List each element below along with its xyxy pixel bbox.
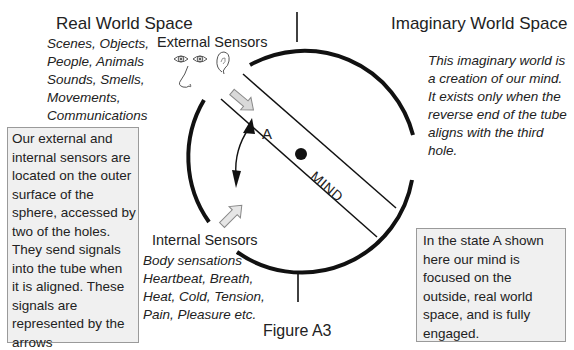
note-line: arrows	[12, 334, 134, 350]
note-line: focused on the	[423, 269, 559, 288]
state-note-box: In the state A shown here our mind is fo…	[416, 228, 566, 342]
external-sensors-label: External Sensors	[157, 34, 267, 50]
note-line: it is aligned. These	[12, 278, 134, 297]
internal-sensor-item: Body sensations	[143, 252, 265, 270]
real-world-title: Real World Space	[56, 14, 193, 34]
center-dot	[295, 148, 307, 160]
state-label: A	[262, 125, 272, 142]
note-line: into the tube when	[12, 260, 134, 279]
nose-icon	[179, 66, 190, 87]
note-line: surface of the	[12, 186, 134, 205]
real-world-item: Sounds, Smells,	[47, 71, 149, 89]
note-line: sphere, accessed by	[12, 204, 134, 223]
note-line: located on the outer	[12, 167, 134, 186]
sphere-arc-left	[188, 100, 209, 222]
external-signal-arrow	[227, 86, 259, 116]
internal-sensor-item: Heartbeat, Breath,	[143, 270, 265, 288]
imaginary-world-description: This imaginary world is a creation of ou…	[428, 52, 567, 160]
eye-icon	[193, 56, 207, 62]
internal-signal-arrow	[216, 200, 247, 231]
note-line: two of the holes.	[12, 223, 134, 242]
internal-sensors-label: Internal Sensors	[152, 232, 258, 248]
tube-edge-lower	[221, 99, 377, 237]
note-line: space, and is fully	[423, 306, 559, 325]
real-world-item: People, Animals	[47, 53, 149, 71]
note-line: Our external and	[12, 130, 134, 149]
real-world-items: Scenes, Objects, People, Animals Sounds,…	[47, 35, 149, 125]
internal-sensor-item: Pain, Pleasure etc.	[143, 306, 265, 324]
note-line: signals are	[12, 297, 134, 316]
real-world-item: Communications	[47, 107, 149, 125]
note-line: outside, real world	[423, 288, 559, 307]
figure-caption: Figure A3	[263, 322, 331, 340]
ear-icon	[217, 52, 229, 74]
note-line: In the state A shown	[423, 232, 559, 251]
note-line: here our mind is	[423, 251, 559, 270]
rotation-arrowhead-down	[232, 170, 241, 188]
real-world-item: Movements,	[47, 89, 149, 107]
note-line: internal sensors are	[12, 149, 134, 168]
internal-sensor-item: Heat, Cold, Tension,	[143, 288, 265, 306]
eye-icon	[174, 56, 188, 62]
description-line: It exists only when the	[428, 88, 567, 106]
note-line: represented by the	[12, 315, 134, 334]
description-line: a creation of our mind.	[428, 70, 567, 88]
real-world-item: Scenes, Objects,	[47, 35, 149, 53]
description-line: This imaginary world is	[428, 52, 567, 70]
sensors-note-box: Our external and internal sensors are lo…	[7, 127, 139, 343]
rotation-arrow-path	[236, 128, 249, 175]
sphere-arc-top	[250, 51, 413, 135]
imaginary-world-title: Imaginary World Space	[391, 14, 567, 34]
description-line: hole.	[428, 142, 567, 160]
description-line: reverse end of the tube	[428, 106, 567, 124]
internal-sensors-items: Body sensations Heartbeat, Breath, Heat,…	[143, 252, 265, 324]
description-line: aligns with the third	[428, 124, 567, 142]
note-line: engaged.	[423, 325, 559, 344]
note-line: They send signals	[12, 241, 134, 260]
